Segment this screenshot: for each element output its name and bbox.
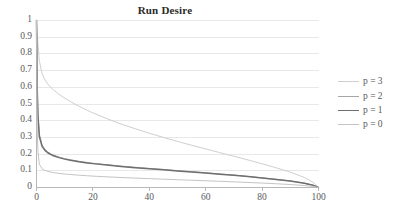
- legend-item[interactable]: p = 2: [338, 88, 410, 102]
- y-tick-label: 0.4: [8, 114, 32, 124]
- y-tick-label: 0.1: [8, 164, 32, 174]
- legend-item[interactable]: p = 0: [338, 117, 410, 131]
- legend-swatch-icon: [338, 105, 359, 115]
- y-tick-label: 1: [8, 14, 32, 24]
- y-tick-label: 0.6: [8, 81, 32, 91]
- y-tick-label: 0.7: [8, 64, 32, 74]
- legend-item[interactable]: p = 1: [338, 103, 410, 117]
- legend-label: p = 2: [363, 91, 383, 101]
- legend-swatch-icon: [338, 119, 359, 129]
- y-tick-label: 0: [8, 181, 32, 191]
- legend-label: p = 3: [363, 76, 383, 86]
- x-tick-label: 0: [17, 192, 57, 202]
- x-tick-label: 40: [129, 192, 169, 202]
- chart-container: Run Desire 00.10.20.30.40.50.60.70.80.91…: [0, 0, 412, 220]
- x-tick-label: 100: [299, 192, 339, 202]
- legend-item[interactable]: p = 3: [338, 74, 410, 88]
- y-tick-label: 0.8: [8, 47, 32, 57]
- legend-swatch-icon: [338, 76, 359, 86]
- x-tick-label: 60: [186, 192, 226, 202]
- legend-label: p = 1: [363, 105, 383, 115]
- y-tick-label: 0.2: [8, 148, 32, 158]
- legend-swatch-icon: [338, 91, 359, 101]
- y-tick-label: 0.3: [8, 131, 32, 141]
- y-tick-label: 0.9: [8, 31, 32, 41]
- legend-label: p = 0: [363, 119, 383, 129]
- x-tick-label: 20: [73, 192, 113, 202]
- y-tick-label: 0.5: [8, 98, 32, 108]
- x-tick-label: 80: [242, 192, 282, 202]
- chart-legend: p = 3p = 2p = 1p = 0: [338, 74, 410, 132]
- gridlines: [37, 21, 319, 171]
